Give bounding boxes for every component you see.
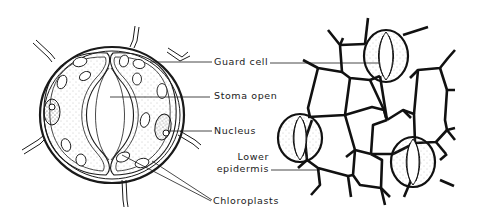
label-lower-epidermis-line2: epidermis (208, 163, 269, 174)
label-nucleus: Nucleus (214, 125, 256, 136)
diagram-drawing (0, 0, 485, 223)
label-chloroplasts: Chloroplasts (213, 195, 279, 206)
label-stoma-open: Stoma open (214, 90, 277, 101)
enlarged-stoma (22, 26, 201, 207)
label-lower-epidermis-line1: Lower (218, 151, 269, 162)
stomata-diagram: Guard cell Stoma open Nucleus Lower epid… (0, 0, 485, 223)
label-guard-cell: Guard cell (214, 56, 268, 67)
